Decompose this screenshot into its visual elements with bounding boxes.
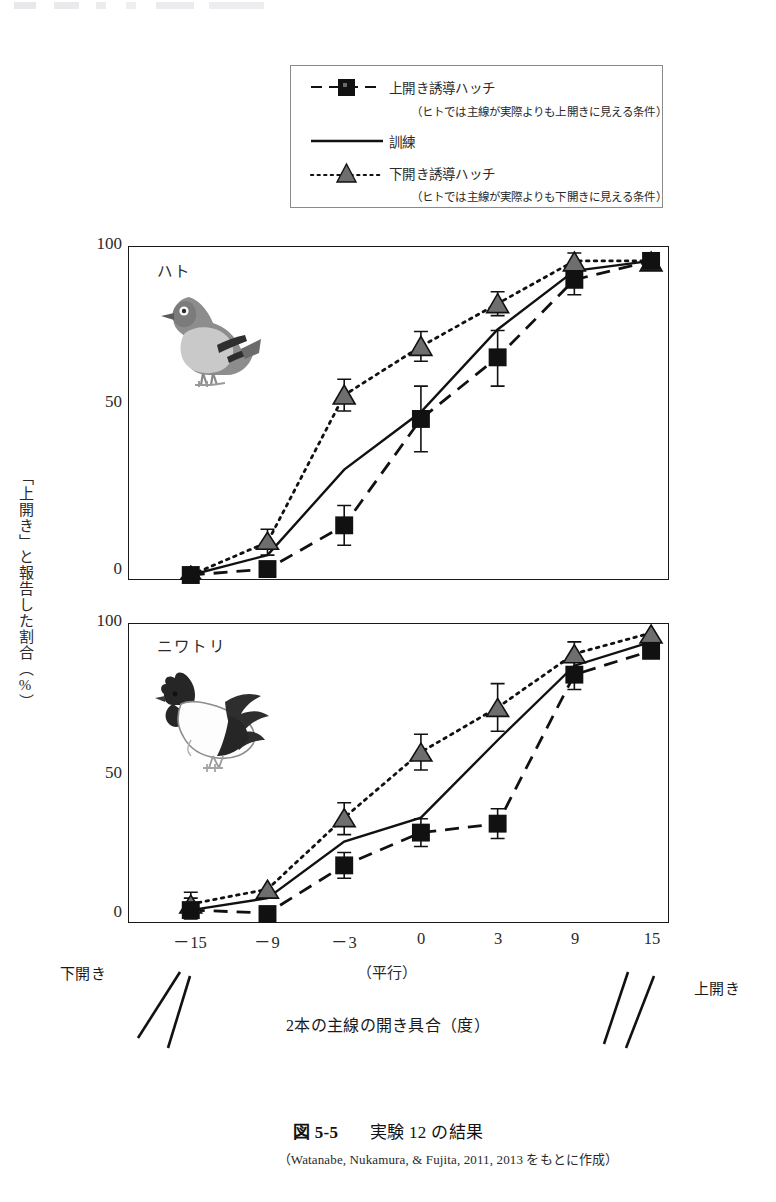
- chart-panel-chicken: ニワトリ: [128, 623, 669, 923]
- legend-item-label: 訓練: [389, 131, 416, 151]
- y-axis-title: 「上開き」と報告した割合（%）: [8, 470, 36, 710]
- lower-open-angle-icon: [128, 968, 198, 1052]
- legend-item-sublabel: （ヒトでは主線が実際よりも下開きに見える条件）: [411, 188, 667, 204]
- dashed-square-marker-icon: [305, 76, 389, 98]
- y-tick-label-0-bottom: 0: [76, 902, 122, 922]
- x-axis-center-note: （平行）: [327, 961, 447, 982]
- x-tick-label-3: 0: [398, 929, 444, 949]
- y-tick-label-100-top: 100: [76, 234, 122, 254]
- legend-item-label: 上開き誘導ハッチ: [389, 77, 495, 97]
- page-top-artifact: [14, 2, 264, 9]
- y-tick-label-50-bottom: 50: [76, 763, 122, 783]
- x-tick-label-1: －9: [244, 929, 290, 953]
- x-axis-title: 2本の主線の開き具合（度）: [238, 1012, 538, 1036]
- dotted-triangle-marker-icon: [305, 162, 389, 184]
- y-tick-label-100-bottom: 100: [76, 611, 122, 631]
- markers-upper-hatch: [182, 252, 660, 584]
- x-tick-label-0: －15: [167, 929, 213, 953]
- figure-page: 上開き誘導ハッチ （ヒトでは主線が実際よりも上開きに見える条件） 訓練 下開き誘…: [0, 0, 776, 1202]
- x-tick-label-5: 9: [552, 929, 598, 949]
- error-bars-upper-hatch: [184, 662, 582, 919]
- y-tick-label-50-top: 50: [76, 392, 122, 412]
- x-axis-left-note: 下開き: [60, 962, 106, 983]
- chicken-series-plot: [129, 624, 668, 922]
- figure-number: 図 5-5: [293, 1123, 339, 1142]
- pigeon-series-plot: [129, 247, 668, 579]
- chart-panel-pigeon: ハト: [128, 246, 669, 580]
- series-upper-hatch-line: [191, 651, 651, 913]
- y-tick-label-0-top: 0: [76, 559, 122, 579]
- upper-open-angle-icon: [590, 968, 670, 1052]
- x-tick-label-6: 15: [629, 929, 675, 949]
- figure-caption: 図 5-5 実験 12 の結果 （Watanabe, Nukamura, & F…: [0, 1118, 776, 1168]
- legend-item-training: 訓練: [305, 130, 416, 152]
- markers-upper-hatch: [182, 642, 660, 923]
- x-tick-label-2: －3: [321, 929, 367, 953]
- solid-line-marker-icon: [305, 130, 389, 152]
- caption-source-line: （Watanabe, Nukamura, & Fujita, 2011, 201…: [0, 1149, 776, 1168]
- caption-main-line: 図 5-5 実験 12 の結果: [0, 1118, 776, 1143]
- legend-item-lower-hatch: 下開き誘導ハッチ: [305, 162, 495, 184]
- x-tick-label-4: 3: [475, 929, 521, 949]
- figure-title: 実験 12 の結果: [370, 1123, 484, 1142]
- legend-item-upper-hatch: 上開き誘導ハッチ: [305, 76, 495, 98]
- legend-item-sublabel: （ヒトでは主線が実際よりも上開きに見える条件）: [411, 103, 667, 119]
- x-axis-right-note: 上開き: [694, 977, 740, 998]
- legend-item-label: 下開き誘導ハッチ: [389, 163, 495, 183]
- chart-legend: 上開き誘導ハッチ （ヒトでは主線が実際よりも上開きに見える条件） 訓練 下開き誘…: [290, 65, 663, 208]
